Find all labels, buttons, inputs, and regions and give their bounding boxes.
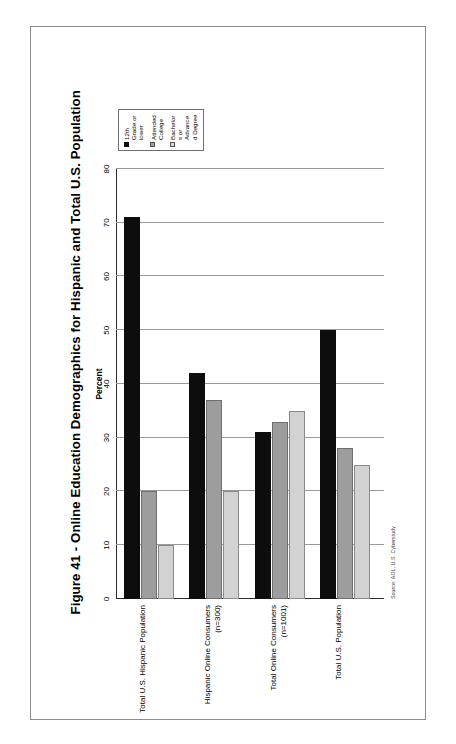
category-label: Total U.S. Population xyxy=(334,605,344,713)
legend-swatch-icon xyxy=(150,142,155,147)
bar xyxy=(320,330,336,599)
legend-label: Attended College xyxy=(150,113,164,140)
legend-label: 12th Grade or lower xyxy=(123,113,145,140)
bar xyxy=(272,422,288,599)
x-tick-label: 50 xyxy=(102,326,111,335)
x-tick-label: 80 xyxy=(102,165,111,174)
bar xyxy=(189,373,205,599)
bar xyxy=(158,545,174,599)
bar xyxy=(337,449,353,600)
figure-sheet: Figure 41 - Online Education Demographic… xyxy=(30,26,426,720)
legend-swatch-icon xyxy=(124,142,129,147)
legend-item: Bachelors or Advanced Degree xyxy=(169,113,198,147)
x-tick-label: 70 xyxy=(102,218,111,227)
legend-label: Bachelors or Advanced Degree xyxy=(169,113,198,140)
x-tick-label: 20 xyxy=(102,487,111,496)
bar xyxy=(223,492,239,600)
category-label: Total Online Consumers (n=1001) xyxy=(269,605,289,713)
chart-legend: 12th Grade or lowerAttended CollegeBache… xyxy=(118,109,204,151)
category-label: Total U.S. Hispanic Population xyxy=(138,605,148,713)
category-group: Total U.S. Population xyxy=(313,169,379,599)
source-note: Source: AOL, U.S. Cyberstudy xyxy=(390,526,396,599)
bar xyxy=(289,411,305,599)
bar xyxy=(255,432,271,599)
category-group: Hispanic Online Consumers (n=300) xyxy=(182,169,248,599)
category-group: Total U.S. Hispanic Population xyxy=(116,169,182,599)
x-tick-label: 10 xyxy=(102,541,111,550)
chart-container: Percent Total U.S. Hispanic PopulationHi… xyxy=(82,99,412,717)
chart-rotation-frame: Percent Total U.S. Hispanic PopulationHi… xyxy=(82,0,412,99)
plot-area: Total U.S. Hispanic PopulationHispanic O… xyxy=(116,169,378,599)
x-tick-label: 30 xyxy=(102,433,111,442)
figure-title: Figure 41 - Online Education Demographic… xyxy=(68,95,83,615)
legend-swatch-icon xyxy=(170,142,175,147)
bar xyxy=(124,217,140,599)
bar xyxy=(141,492,157,600)
page-canvas: Figure 41 - Online Education Demographic… xyxy=(0,0,456,744)
x-tick-label: 0 xyxy=(102,597,111,601)
category-group: Total Online Consumers (n=1001) xyxy=(247,169,313,599)
category-label: Hispanic Online Consumers (n=300) xyxy=(203,605,223,713)
bar xyxy=(206,400,222,599)
legend-item: 12th Grade or lower xyxy=(123,113,145,147)
x-tick-label: 60 xyxy=(102,272,111,281)
bar xyxy=(354,465,370,599)
legend-item: Attended College xyxy=(150,113,164,147)
x-tick-label: 40 xyxy=(102,380,111,389)
